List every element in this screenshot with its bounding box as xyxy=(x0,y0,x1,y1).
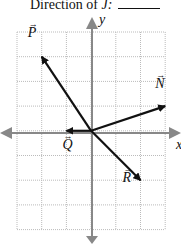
vector-arrow-accent-icon: → xyxy=(156,70,165,80)
x-axis-label: x xyxy=(175,137,181,152)
vectors: P→N→Q→R→ xyxy=(27,19,166,186)
vector-arrow-accent-icon: → xyxy=(29,19,38,29)
vector-p xyxy=(42,57,91,131)
vector-arrow-accent-icon: → xyxy=(124,164,133,174)
vector-n xyxy=(91,106,165,131)
y-axis-down-arrow-icon xyxy=(86,236,98,244)
vector-diagram: y x P→N→Q→R→ xyxy=(0,0,181,244)
x-axis-left-arrow-icon xyxy=(0,127,12,139)
y-axis-label: y xyxy=(97,12,106,27)
y-axis-up-arrow-icon xyxy=(86,17,98,29)
vector-arrow-accent-icon: → xyxy=(63,131,72,141)
